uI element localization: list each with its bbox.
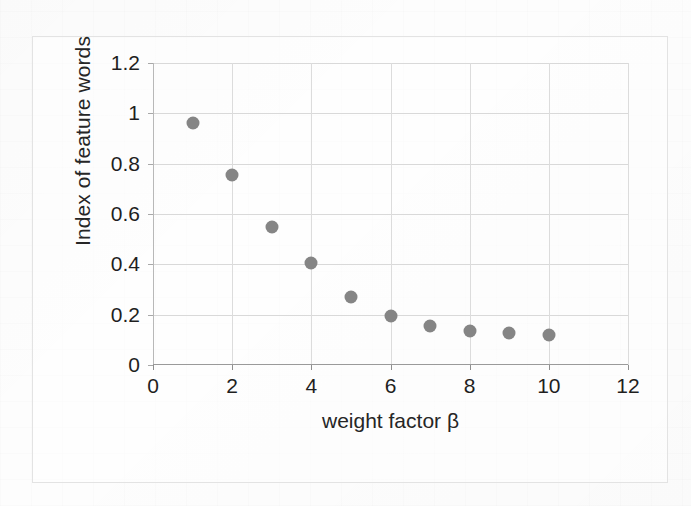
y-tick-mark — [148, 315, 153, 316]
gridline-vertical — [232, 63, 233, 365]
x-tick-mark — [470, 365, 471, 370]
data-point-marker — [186, 117, 199, 130]
data-point-marker — [226, 168, 239, 181]
gridline-vertical — [628, 63, 629, 365]
data-point-marker — [542, 329, 555, 342]
y-tick-label: 1.2 — [111, 51, 140, 75]
x-tick-mark — [391, 365, 392, 370]
data-point-marker — [344, 291, 357, 304]
y-axis-line — [153, 63, 154, 365]
data-point-marker — [463, 325, 476, 338]
x-tick-label: 8 — [464, 374, 476, 398]
data-point-marker — [503, 326, 516, 339]
chart-screenshot: Index of feature words 00.20.40.60.811.2… — [0, 0, 691, 506]
data-point-marker — [424, 319, 437, 332]
gridline-vertical — [311, 63, 312, 365]
y-tick-label: 0 — [128, 353, 140, 377]
x-tick-mark — [232, 365, 233, 370]
y-tick-label: 0.6 — [111, 202, 140, 226]
y-tick-mark — [148, 63, 153, 64]
gridline-vertical — [549, 63, 550, 365]
data-point-marker — [265, 220, 278, 233]
chart-frame: Index of feature words 00.20.40.60.811.2… — [32, 36, 668, 483]
x-tick-mark — [153, 365, 154, 370]
x-tick-mark — [549, 365, 550, 370]
x-tick-mark — [311, 365, 312, 370]
x-tick-label: 4 — [305, 374, 317, 398]
gridline-vertical — [470, 63, 471, 365]
x-tick-label: 10 — [537, 374, 560, 398]
y-tick-mark — [148, 214, 153, 215]
x-tick-label: 0 — [147, 374, 159, 398]
data-point-marker — [305, 257, 318, 270]
y-tick-label: 0.2 — [111, 303, 140, 327]
x-tick-label: 2 — [226, 374, 238, 398]
x-tick-mark — [628, 365, 629, 370]
y-tick-label: 0.8 — [111, 152, 140, 176]
y-tick-mark — [148, 164, 153, 165]
x-axis-title: weight factor β — [153, 409, 628, 433]
y-tick-label: 1 — [128, 101, 140, 125]
y-axis-title: Index of feature words — [71, 31, 95, 251]
x-tick-label: 12 — [616, 374, 639, 398]
y-tick-label: 0.4 — [111, 252, 140, 276]
x-tick-label: 6 — [385, 374, 397, 398]
data-point-marker — [384, 309, 397, 322]
y-tick-mark — [148, 264, 153, 265]
y-tick-mark — [148, 113, 153, 114]
plot-area: 00.20.40.60.811.2 024681012 — [153, 63, 628, 365]
